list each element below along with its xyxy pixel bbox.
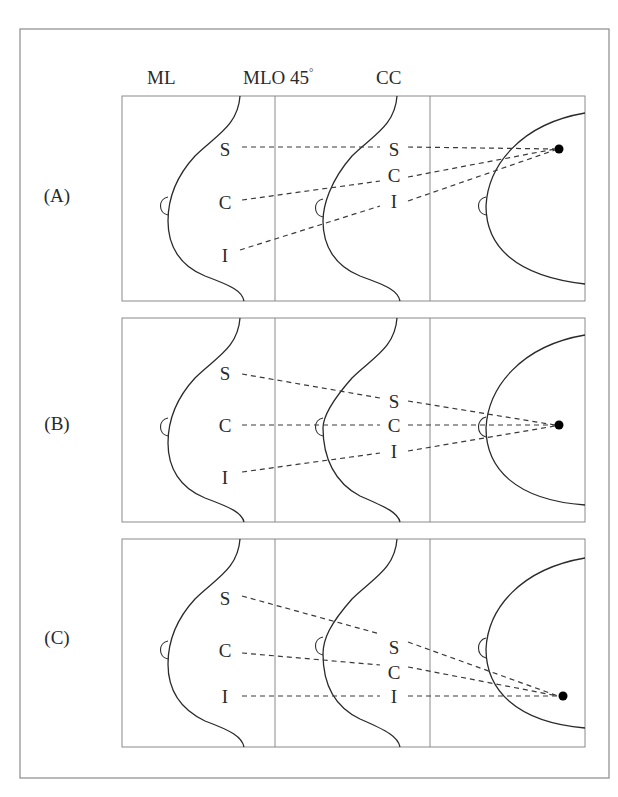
ml-breast-outline [168, 539, 244, 747]
mlo-nipple [316, 199, 324, 217]
mlo-label-i: I [391, 686, 397, 707]
panel-a [122, 96, 585, 301]
mlo-label-i: I [391, 441, 397, 462]
row-label-a: (A) [44, 185, 70, 207]
ml-nipple [161, 418, 169, 436]
row-b: (B) S C I S C I [44, 318, 585, 522]
cc-breast-outline [486, 335, 585, 505]
ml-label-i: I [222, 245, 228, 266]
mlo-label-s: S [389, 139, 400, 160]
ml-nipple [161, 197, 169, 215]
projection-line-s-ml-mlo [242, 374, 380, 398]
lesion-dot [555, 145, 564, 154]
ml-nipple [161, 641, 169, 659]
mlo-label-s: S [389, 637, 400, 658]
ml-breast-outline [168, 318, 244, 522]
mlo-label-c: C [388, 415, 401, 436]
mammography-projection-diagram: ML MLO 45° CC (A) S C I S C I [0, 0, 618, 797]
mlo-nipple [316, 637, 324, 655]
header-ml: ML [147, 67, 176, 88]
row-label-c: (C) [44, 627, 69, 649]
cc-breast-outline [486, 113, 585, 284]
cc-nipple [479, 417, 487, 437]
cc-nipple [479, 197, 487, 215]
mlo-nipple [316, 418, 324, 436]
projection-line-i-ml-mlo [240, 206, 380, 250]
header-mlo-degree: ° [309, 66, 313, 78]
ml-label-s: S [220, 363, 231, 384]
mlo-label-s: S [389, 391, 400, 412]
projection-line-c-ml-mlo [242, 181, 380, 200]
ml-label-c: C [219, 415, 232, 436]
row-label-b: (B) [44, 413, 69, 435]
mlo-breast-outline [323, 96, 400, 301]
header-mlo-text: MLO 45 [243, 67, 309, 88]
header-cc: CC [376, 67, 401, 88]
ml-label-c: C [219, 192, 232, 213]
projection-line-s-ml-mlo [242, 596, 380, 634]
cc-breast-outline [486, 558, 585, 728]
row-c: (C) S C I S C I [44, 539, 585, 747]
ml-label-i: I [222, 686, 228, 707]
mlo-label-c: C [388, 165, 401, 186]
projection-line-c-ml-mlo [242, 653, 380, 665]
lesion-dot [559, 692, 568, 701]
ml-label-i: I [222, 467, 228, 488]
ml-breast-outline [168, 96, 244, 301]
projection-line-i-ml-mlo [242, 453, 380, 472]
mlo-label-i: I [391, 191, 397, 212]
ml-label-s: S [220, 139, 231, 160]
ml-label-c: C [219, 640, 232, 661]
lesion-dot [555, 421, 564, 430]
row-a: (A) S C I S C I [44, 96, 585, 301]
cc-nipple [479, 638, 487, 658]
header-mlo: MLO 45° [243, 66, 313, 88]
ml-label-s: S [220, 588, 231, 609]
mlo-label-c: C [388, 662, 401, 683]
